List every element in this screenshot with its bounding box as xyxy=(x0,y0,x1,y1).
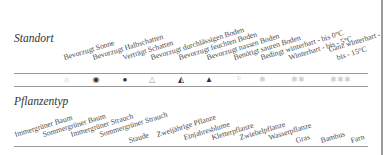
acid-soil-icon: ᵁ xyxy=(229,75,249,85)
pflanzentyp-title: Pflanzentyp xyxy=(14,95,68,107)
divider-bottom xyxy=(14,146,368,147)
divider-top xyxy=(14,73,368,74)
snowflake-3-icon: ❄❄❄ xyxy=(318,75,362,85)
drop-half-icon: ◭ xyxy=(171,75,191,85)
label-bambus: Bambus xyxy=(320,130,346,145)
label-staude: Staude xyxy=(128,131,150,144)
half-shade-icon: ◉ xyxy=(86,75,106,85)
drop-filled-icon: ▲ xyxy=(199,75,219,85)
divider-middle xyxy=(14,86,368,87)
standort-title: Standort xyxy=(14,32,54,44)
shade-icon: ● xyxy=(115,75,135,85)
snowflake-1-icon: ❄ xyxy=(252,75,272,85)
snowflake-2-icon: ❄❄ xyxy=(280,75,316,85)
drop-outline-icon: △ xyxy=(142,75,162,85)
sun-icon: ☼ xyxy=(57,75,77,85)
label-farn: Farn xyxy=(350,133,366,144)
label-gras: Gras xyxy=(295,133,311,144)
page-border xyxy=(381,0,383,155)
